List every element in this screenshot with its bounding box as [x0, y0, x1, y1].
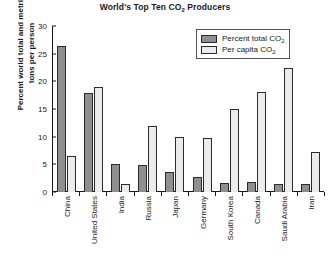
bar-percent-total [57, 46, 66, 192]
y-axis-tick-mark [52, 81, 56, 82]
y-axis-tick-label: 0 [43, 188, 52, 197]
legend-label-capita-subscript: 2 [272, 49, 275, 55]
bar-group [107, 26, 134, 192]
bar-percent-total [220, 183, 229, 192]
bar-percent-total [274, 184, 283, 192]
bar-group [53, 26, 80, 192]
bar-group [80, 26, 107, 192]
legend-swatch-total-icon [201, 35, 217, 43]
bar-group [297, 26, 324, 192]
bar-group [161, 26, 188, 192]
legend: Percent total CO2 Per capita CO2 [196, 29, 290, 59]
chart-title: World's Top Ten CO2 Producers [0, 2, 330, 12]
bar-percent-total [84, 93, 93, 192]
legend-label-total: Percent total CO2 [222, 34, 284, 43]
x-axis-tick-label: Saudi Arabia [280, 196, 289, 241]
bar-per-capita [121, 184, 130, 192]
y-axis-label: Percent world total and metric tons per … [16, 0, 38, 128]
chart-container: World's Top Ten CO2 Producers Percent wo… [0, 0, 330, 273]
x-axis-tick-label: Canada [253, 196, 262, 224]
bar-per-capita [203, 138, 212, 192]
bar-per-capita [175, 137, 184, 192]
y-axis-label-line1: Percent world total and metric [16, 0, 27, 128]
legend-label-capita: Per capita CO2 [222, 45, 276, 54]
y-axis-tick-label: 20 [38, 77, 52, 86]
y-axis-tick-mark [52, 26, 56, 27]
legend-label-total-main: Percent total CO [222, 34, 281, 43]
bar-per-capita [94, 87, 103, 192]
legend-item-total: Percent total CO2 [201, 33, 284, 44]
x-axis-tick-label: India [117, 196, 126, 213]
legend-swatch-capita-icon [201, 46, 217, 54]
bar-percent-total [247, 182, 256, 192]
bar-per-capita [311, 152, 320, 192]
y-axis-tick-label: 5 [43, 160, 52, 169]
legend-label-capita-main: Per capita CO [222, 45, 272, 54]
x-axis-tick-label: China [62, 196, 71, 217]
bar-per-capita [257, 92, 266, 192]
bar-per-capita [67, 156, 76, 192]
x-axis-tick-label: Russia [144, 196, 153, 220]
x-axis-tick-label: Germany [198, 196, 207, 229]
y-axis-tick-label: 30 [38, 22, 52, 31]
bar-percent-total [165, 172, 174, 192]
legend-item-capita: Per capita CO2 [201, 44, 284, 55]
x-axis-tick-label: Japan [171, 196, 180, 218]
bar-percent-total [301, 184, 310, 192]
y-axis-tick-label: 25 [38, 49, 52, 58]
bar-per-capita [148, 126, 157, 192]
chart-title-subscript: 2 [181, 7, 184, 13]
bar-group [134, 26, 161, 192]
y-axis-tick-mark [52, 136, 56, 137]
chart-title-tail: Producers [185, 2, 230, 12]
bar-per-capita [284, 68, 293, 193]
bar-percent-total [138, 165, 147, 192]
bar-percent-total [193, 177, 202, 192]
x-axis-tick-label: Iran [307, 196, 316, 210]
y-axis-tick-label: 10 [38, 132, 52, 141]
y-axis-tick-mark [52, 53, 56, 54]
chart-title-main: World's Top Ten CO [100, 2, 182, 12]
bar-percent-total [111, 164, 120, 192]
y-axis-tick-mark [52, 109, 56, 110]
y-axis-label-line2: tons per person [27, 0, 38, 128]
x-axis-tick-label: United States [89, 196, 98, 244]
bar-per-capita [230, 109, 239, 192]
x-axis-labels: ChinaUnited StatesIndiaRussiaJapanGerman… [53, 196, 325, 270]
x-axis-tick-label: South Korea [225, 196, 234, 240]
y-axis-tick-label: 15 [38, 105, 52, 114]
y-axis-tick-mark [52, 164, 56, 165]
legend-label-total-subscript: 2 [281, 38, 284, 44]
